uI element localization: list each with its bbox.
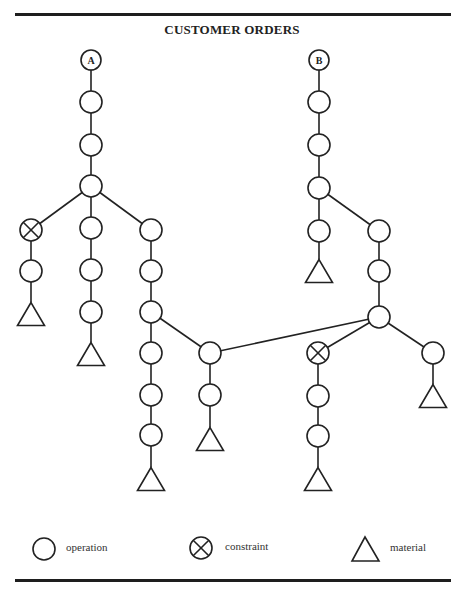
operation-node [199, 384, 221, 406]
operation-node [307, 425, 329, 447]
operation-node [140, 424, 162, 446]
operation-node [80, 301, 102, 323]
triangle-icon [420, 385, 447, 408]
edge [210, 317, 379, 353]
nodes: AB [18, 50, 447, 491]
material-node [197, 428, 224, 451]
operation-node [140, 219, 162, 241]
circle-icon [80, 134, 102, 156]
circle-icon [307, 385, 329, 407]
circle-icon [20, 260, 42, 282]
circle-icon [307, 425, 329, 447]
operation-node [308, 177, 330, 199]
operation-node [140, 260, 162, 282]
circle-icon [140, 424, 162, 446]
operation-node [368, 260, 390, 282]
operation-node [308, 134, 330, 156]
operation-node [308, 91, 330, 113]
material-node [138, 468, 165, 491]
operation-node [80, 134, 102, 156]
operation-node [199, 342, 221, 364]
circle-icon [80, 301, 102, 323]
circle-icon [422, 342, 444, 364]
circle-icon [308, 220, 330, 242]
circle-icon [308, 177, 330, 199]
constraint-legend-icon [190, 537, 212, 559]
bottom-rule [15, 579, 451, 582]
operation-node [20, 260, 42, 282]
operation-legend-icon [33, 538, 55, 560]
operation-node [80, 217, 102, 239]
circle-icon [140, 384, 162, 406]
legend-constraint-label: constraint [225, 540, 268, 552]
operation-node [80, 259, 102, 281]
triangle-icon [78, 343, 105, 366]
legend-material-label: material [390, 541, 426, 553]
circle-icon [80, 259, 102, 281]
operation-node [80, 91, 102, 113]
operation-node [140, 301, 162, 323]
circle-icon [140, 342, 162, 364]
operation-node [422, 342, 444, 364]
circle-icon [140, 219, 162, 241]
circle-icon [80, 217, 102, 239]
material-node [420, 385, 447, 408]
circle-icon [308, 134, 330, 156]
constraint-node [20, 219, 42, 241]
triangle-icon [138, 468, 165, 491]
material-legend-icon [352, 537, 379, 561]
circle-icon [308, 91, 330, 113]
circle-icon [140, 301, 162, 323]
triangle-icon [18, 303, 45, 326]
triangle-icon [306, 260, 333, 283]
order-tree-diagram: AB [0, 0, 464, 589]
circle-icon [80, 175, 102, 197]
operation-node [307, 385, 329, 407]
material-node [78, 343, 105, 366]
circle-icon [199, 384, 221, 406]
operation-node [308, 220, 330, 242]
triangle-icon [197, 428, 224, 451]
circle-icon [368, 220, 390, 242]
circle-icon [368, 306, 390, 328]
operation-node [140, 342, 162, 364]
root-label: B [316, 55, 323, 66]
material-node [305, 468, 332, 491]
circle-icon [80, 91, 102, 113]
operation-node [368, 306, 390, 328]
circle-icon [140, 260, 162, 282]
root-node: B [309, 50, 329, 70]
operation-node [80, 175, 102, 197]
circle-icon [368, 260, 390, 282]
legend-operation-label: operation [66, 541, 108, 553]
constraint-node [307, 342, 329, 364]
material-node [306, 260, 333, 283]
circle-icon [199, 342, 221, 364]
material-node [18, 303, 45, 326]
root-node: A [81, 50, 101, 70]
root-label: A [87, 55, 95, 66]
operation-node [368, 220, 390, 242]
triangle-icon [305, 468, 332, 491]
operation-node [140, 384, 162, 406]
